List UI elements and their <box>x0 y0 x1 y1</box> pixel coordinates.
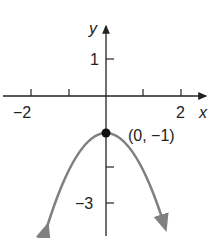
vertex-label: (0, −1) <box>128 127 175 144</box>
y-tick-label-neg3: −3 <box>75 195 93 212</box>
x-tick-label-neg2: −2 <box>13 104 31 121</box>
y-axis-label: y <box>88 20 98 37</box>
vertex-point <box>102 129 111 138</box>
y-tick-label-1: 1 <box>90 51 99 68</box>
parabola-graph: y x 1 −2 2 −3 (0, −1) <box>0 0 217 238</box>
x-axis-label: x <box>198 104 208 121</box>
x-tick-label-2: 2 <box>176 104 185 121</box>
